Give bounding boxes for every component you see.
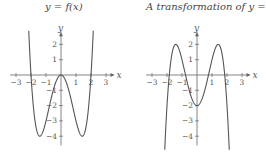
y-tick-label: 1 [188, 55, 193, 64]
x-tick-label: −3 [146, 78, 157, 87]
x-axis-label: x [117, 70, 122, 80]
x-tick-label: 1 [210, 78, 215, 87]
y-tick-label: −2 [182, 101, 193, 110]
y-axis-label: y [193, 23, 200, 33]
right-axes: −3−2−112321−1−2−3−4xy [146, 23, 258, 145]
x-tick-label: 3 [104, 78, 109, 87]
y-axis-label: y [57, 23, 64, 33]
y-tick-label: 2 [52, 40, 57, 49]
left-axes: −3−2−112321−1−2−3−4xy [10, 23, 122, 145]
y-tick-label: −4 [182, 132, 193, 141]
y-tick-label: −4 [46, 132, 57, 141]
y-tick-label: 1 [52, 55, 57, 64]
y-tick-label: −3 [46, 116, 57, 125]
plots: −3−2−112321−1−2−3−4xy−3−2−112321−1−2−3−4… [0, 0, 266, 155]
x-tick-label: 3 [240, 78, 245, 87]
y-tick-label: −1 [182, 86, 193, 95]
x-tick-label: −3 [10, 78, 21, 87]
y-tick-label: −2 [46, 101, 57, 110]
x-axis-label: x [253, 70, 258, 80]
x-tick-label: 1 [74, 78, 79, 87]
y-tick-label: 2 [188, 40, 193, 49]
x-tick-label: −2 [161, 78, 172, 87]
y-tick-label: −1 [46, 86, 57, 95]
y-tick-label: −3 [182, 116, 193, 125]
